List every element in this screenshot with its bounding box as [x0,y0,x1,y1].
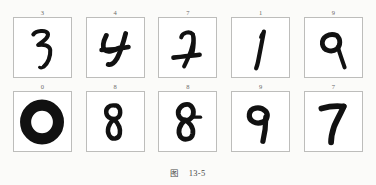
digit-panel-r1c1 [13,17,72,78]
digit-cell-r1c4: 1 [230,8,291,78]
digit-cell-r1c2: 4 [85,8,146,78]
caption-prefix: 图 [170,168,179,178]
digit-image-4-a [87,18,144,77]
digit-panel-r1c5 [304,17,363,78]
digit-image-0-a [14,92,71,151]
caption-number: 13-5 [189,168,206,178]
digit-cell-r2c5: 7 [303,82,364,152]
digit-image-1-a [232,18,289,77]
digit-cell-r2c3: 8 [158,82,219,152]
digit-panel-r2c5 [304,91,363,152]
digit-image-7-a [159,18,216,77]
digit-panel-r1c3 [158,17,217,78]
digit-cell-r1c5: 9 [303,8,364,78]
digit-panel-r2c3 [158,91,217,152]
figure-root: 3 4 7 [0,0,376,185]
digit-label-r2c1: 0 [41,82,44,91]
digit-label-r1c5: 9 [332,8,335,17]
digit-cell-r2c1: 0 [12,82,73,152]
digit-cell-r2c2: 8 [85,82,146,152]
digit-label-r2c5: 7 [332,82,335,91]
digit-panel-r1c2 [86,17,145,78]
digit-panel-r1c4 [231,17,290,78]
digit-image-8-b [159,92,216,151]
digit-label-r1c2: 4 [113,8,116,17]
digit-panel-r2c1 [13,91,72,152]
digit-image-3-a [14,18,71,77]
digit-panel-r2c4 [231,91,290,152]
digit-image-9-b [232,92,289,151]
digit-label-r1c4: 1 [259,8,262,17]
digit-cell-r1c3: 7 [158,8,219,78]
digit-grid-row-1: 3 4 7 [12,8,364,78]
digit-sample-grid: 3 4 7 [12,8,364,156]
digit-cell-r2c4: 9 [230,82,291,152]
digit-label-r2c2: 8 [113,82,116,91]
digit-grid-row-2: 0 8 8 [12,82,364,152]
figure-caption: 图13-5 [0,166,376,178]
digit-label-r1c3: 7 [186,8,189,17]
digit-label-r1c1: 3 [41,8,44,17]
digit-image-7-b [305,92,362,151]
digit-label-r2c4: 9 [259,82,262,91]
digit-label-r2c3: 8 [186,82,189,91]
digit-image-9-a [305,18,362,77]
digit-image-8-a [87,92,144,151]
digit-panel-r2c2 [86,91,145,152]
digit-cell-r1c1: 3 [12,8,73,78]
